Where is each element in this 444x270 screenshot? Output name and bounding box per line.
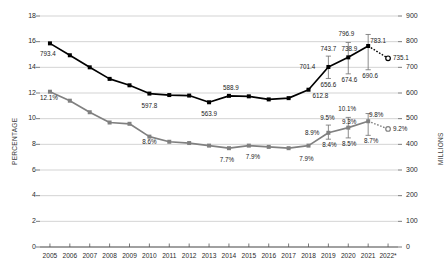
point-label-millions: 597.8 [141,102,157,109]
y-axis-right-tick: 900 [406,12,418,19]
point-label-percentage: 8.9% [305,129,319,136]
point-label-percentage: 8.6% [142,138,156,145]
point-label-percentage: 9.8% [369,111,383,118]
y-axis-right-tick: 100 [406,217,418,224]
point-label-percentage: 9.2% [393,125,407,132]
point-label-percentage: 7.7% [220,156,234,163]
y-axis-right-tick: 800 [406,37,418,44]
point-label-millions: 783.1 [370,37,386,44]
y-axis-left-tick: 0 [14,243,36,250]
point-label-millions: 793.4 [40,50,56,57]
y-axis-right-title: MILLIONS [437,132,444,165]
y-axis-left-tick: 14 [14,63,36,70]
y-axis-left-tick: 10 [14,114,36,121]
error-bar-lower-label: 8.7% [364,137,378,144]
error-bar-lower-label: 8.5% [342,140,356,147]
x-axis-tick: 2022* [374,252,402,259]
y-axis-left-tick: 6 [14,166,36,173]
error-bar-upper-label: 796.9 [338,30,354,37]
point-label-percentage: 9.3% [342,118,356,125]
y-axis-right-tick: 500 [406,114,418,121]
y-axis-left-tick: 16 [14,37,36,44]
error-bar-upper-label: 9.5% [320,114,334,121]
y-axis-right-tick: 400 [406,140,418,147]
y-axis-left-tick: 2 [14,217,36,224]
error-bar-upper-label: 743.7 [320,45,336,52]
y-axis-right-tick: 700 [406,63,418,70]
point-label-percentage: 7.9% [299,155,313,162]
error-bar-upper-label: 10.1% [338,105,356,112]
error-bar-lower-label: 8.4% [322,141,336,148]
y-axis-right-tick: 300 [406,166,418,173]
y-axis-left-tick: 18 [14,12,36,19]
point-label-millions: 612.8 [313,92,329,99]
y-axis-left-tick: 12 [14,89,36,96]
point-label-percentage: 12.1% [40,94,58,101]
point-label-percentage: 7.9% [246,153,260,160]
point-label-millions: 735.1 [393,54,409,61]
point-label-millions: 563.9 [201,110,217,117]
y-axis-right-tick: 0 [406,243,410,250]
y-axis-right-tick: 600 [406,89,418,96]
error-bar-lower-label: 674.6 [341,76,357,83]
y-axis-left-tick: 4 [14,191,36,198]
point-label-millions: 738.9 [341,45,357,52]
point-label-millions: 588.9 [223,84,239,91]
error-bar-lower-label: 656.6 [320,81,336,88]
y-axis-right-tick: 200 [406,191,418,198]
point-label-millions: 701.4 [300,63,316,70]
error-bar-lower-label: 690.6 [362,72,378,79]
y-axis-left-tick: 8 [14,140,36,147]
